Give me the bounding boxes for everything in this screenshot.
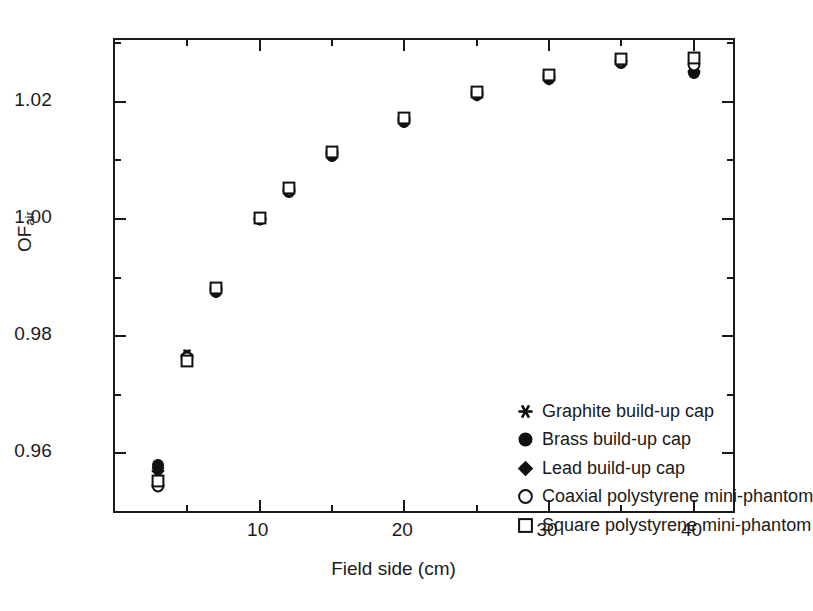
x-axis-title: Field side (cm) (0, 558, 787, 580)
data-point (615, 53, 628, 66)
legend-item: Coaxial polystyrene mini-phantom (508, 483, 813, 512)
data-point (542, 69, 555, 82)
x-axis-major-tick (403, 500, 405, 511)
data-point (152, 474, 165, 487)
legend-item-label: Brass build-up cap (542, 429, 691, 450)
y-axis-major-tick (115, 101, 126, 103)
y-axis-minor-tick-right (727, 394, 733, 396)
data-point (687, 51, 700, 64)
x-axis-major-tick-top (693, 40, 695, 51)
x-axis-major-tick-top (548, 40, 550, 51)
legend-item: Graphite build-up cap (508, 397, 813, 426)
x-axis-minor-tick-top (476, 40, 478, 46)
asterisk-marker (508, 404, 542, 419)
open-square-marker (508, 518, 542, 533)
legend-item-label: Graphite build-up cap (542, 401, 714, 422)
x-axis-minor-tick (186, 505, 188, 511)
legend-item-label: Lead build-up cap (542, 458, 685, 479)
y-axis-minor-tick (115, 159, 121, 161)
y-axis-major-tick (115, 335, 126, 337)
y-tick-label: 0.96 (14, 440, 52, 462)
x-axis-minor-tick (331, 505, 333, 511)
y-axis-major-tick (115, 452, 126, 454)
x-axis-minor-tick (476, 505, 478, 511)
y-tick-label: 1.00 (14, 206, 52, 228)
x-tick-label: 20 (392, 519, 413, 541)
y-axis-title-main: OF (14, 226, 35, 252)
x-axis-minor-tick-top (331, 40, 333, 46)
y-axis-minor-tick-right (727, 277, 733, 279)
y-axis-minor-tick-right (727, 159, 733, 161)
data-point (325, 146, 338, 159)
x-axis-major-tick (259, 500, 261, 511)
y-axis-minor-tick (115, 277, 121, 279)
x-axis-minor-tick-top (186, 40, 188, 46)
open-circle-marker (508, 489, 542, 504)
y-tick-label: 0.98 (14, 323, 52, 345)
filled-circle-marker (508, 432, 542, 447)
legend-item: Square polystyrene mini-phantom (508, 511, 813, 540)
legend-item-label: Coaxial polystyrene mini-phantom (542, 486, 813, 507)
data-point (181, 354, 194, 367)
legend-item: Lead build-up cap (508, 454, 813, 483)
data-point (470, 85, 483, 98)
y-tick-label: 1.02 (14, 89, 52, 111)
data-point (398, 111, 411, 124)
plot-area: Graphite build-up capBrass build-up capL… (113, 38, 735, 513)
data-point (282, 182, 295, 195)
legend-item: Brass build-up cap (508, 426, 813, 455)
y-axis-major-tick-right (722, 335, 733, 337)
y-axis-major-tick-right (722, 101, 733, 103)
y-axis-major-tick (115, 218, 126, 220)
legend-item-label: Square polystyrene mini-phantom (542, 515, 811, 536)
y-axis-major-tick-right (722, 218, 733, 220)
y-axis-minor-tick (115, 394, 121, 396)
y-axis-minor-tick-right (727, 42, 733, 44)
data-point (253, 211, 266, 224)
x-tick-label: 10 (247, 519, 268, 541)
x-axis-minor-tick-top (620, 40, 622, 46)
data-point (210, 282, 223, 295)
y-axis-minor-tick (115, 42, 121, 44)
legend: Graphite build-up capBrass build-up capL… (508, 397, 813, 540)
x-axis-major-tick-top (403, 40, 405, 51)
filled-diamond-marker (508, 461, 542, 476)
y-axis-minor-tick (115, 511, 121, 513)
x-axis-major-tick-top (259, 40, 261, 51)
